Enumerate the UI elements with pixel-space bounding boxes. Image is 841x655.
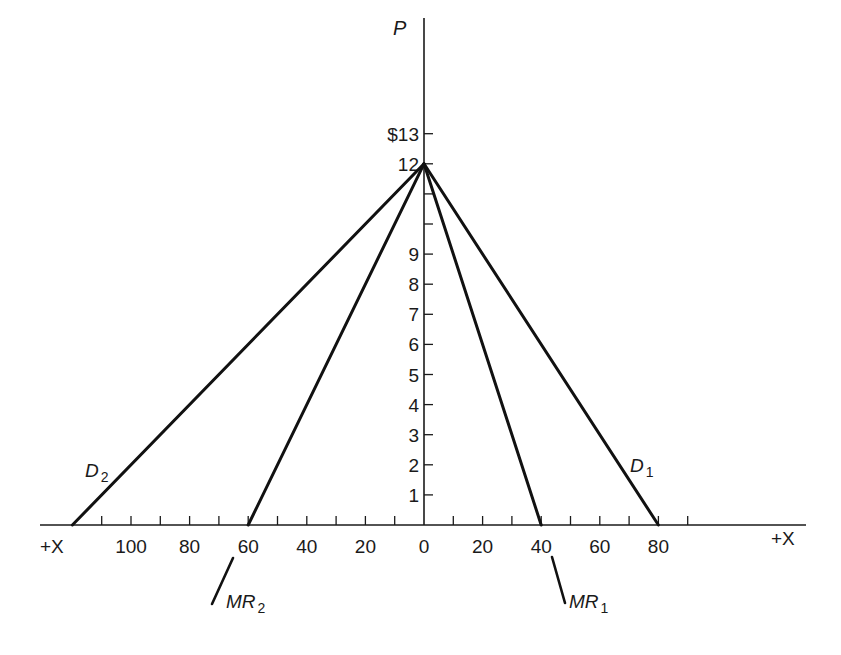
y-tick-label: 5 [408,365,419,386]
x-tick-label-right: 0 [419,536,430,557]
y-tick-label: 4 [408,395,419,416]
d1-label: D1 [630,455,654,480]
axes [40,18,806,525]
x-tick-label-left: 80 [179,536,200,557]
d2-label: D2 [85,460,109,485]
x-tick-label-right: 40 [531,536,552,557]
x-axis-label-left: +X [40,536,64,557]
x-tick-label-left: 40 [296,536,317,557]
x-tick-label-left: 100 [115,536,147,557]
d2-label-text: D [85,460,99,481]
mr2-line [248,164,424,525]
x-tick-label-left: 60 [238,536,259,557]
x-tick-label-right: 20 [472,536,493,557]
x-axis-label-right: +X [771,528,795,549]
mr1-label-subscript: 1 [601,600,609,616]
y-tick-label: 6 [408,334,419,355]
y-tick-label: 7 [408,304,419,325]
mr1-label-leader [552,557,565,603]
y-tick-label: 9 [408,244,419,265]
y-tick-label: 8 [408,274,419,295]
demand-marginal-revenue-chart: 12345678912$13 20406080100020406080 D1MR… [0,0,841,655]
x-ticks: 20406080100020406080 [102,516,688,557]
mr1-label: MR1 [569,591,609,616]
mr2-label: MR2 [226,591,266,616]
y-tick-label: $13 [387,124,419,145]
y-axis-label: P [393,17,407,39]
mr2-label-text: MR [226,591,256,612]
y-tick-label: 1 [408,485,419,506]
x-tick-label-left: 20 [355,536,376,557]
x-tick-label-right: 60 [589,536,610,557]
d1-label-subscript: 1 [646,464,654,480]
d2-line [72,164,424,525]
d2-label-subscript: 2 [101,469,109,485]
y-tick-label: 3 [408,425,419,446]
y-tick-label: 2 [408,455,419,476]
d1-label-text: D [630,455,644,476]
y-ticks: 12345678912$13 [387,124,433,506]
d1-line [424,164,658,525]
mr1-label-text: MR [569,591,599,612]
mr1-line [424,164,541,525]
mr2-label-subscript: 2 [258,600,266,616]
x-tick-label-right: 80 [648,536,669,557]
